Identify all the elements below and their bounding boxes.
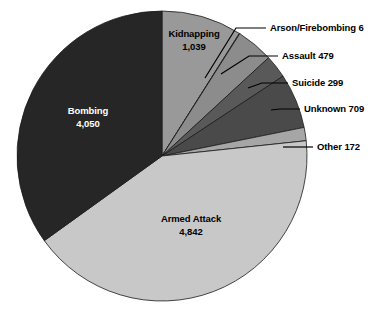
slice-callout-suicide: Suicide 299: [292, 77, 343, 88]
slice-callout-assault: Assault 479: [282, 50, 334, 61]
slice-label-kidnapping: Kidnapping 1,039: [152, 28, 236, 54]
slice-label-armed-attack: Armed Attack 4,842: [131, 213, 251, 239]
pie-chart: Kidnapping 1,039 Bombing 4,050 Armed Att…: [0, 0, 390, 318]
slice-label-kidnapping-name: Kidnapping: [168, 28, 219, 39]
slice-callout-unknown: Unknown 709: [304, 103, 364, 114]
slice-label-armed-attack-name: Armed Attack: [161, 213, 221, 224]
slice-label-bombing-name: Bombing: [68, 105, 108, 116]
slice-label-armed-attack-value: 4,842: [131, 226, 251, 239]
slice-label-kidnapping-value: 1,039: [152, 41, 236, 54]
pie-slices: [17, 11, 307, 301]
slice-callout-other: Other 172: [317, 141, 360, 152]
slice-callout-arson: Arson/Firebombing 6: [270, 22, 364, 33]
slice-label-bombing-value: 4,050: [38, 118, 138, 131]
slice-label-bombing: Bombing 4,050: [38, 105, 138, 131]
